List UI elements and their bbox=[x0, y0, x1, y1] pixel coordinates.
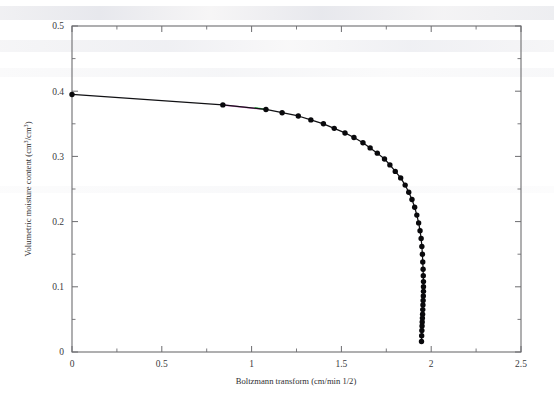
data-point-marker bbox=[419, 333, 424, 338]
y-axis-title: Volumetric moisture content (cm3/cm3) bbox=[22, 121, 33, 256]
y-tick-label: 0.3 bbox=[52, 152, 64, 162]
chart-plot: 00.511.522.5 00.10.20.30.40.5 Boltzmann … bbox=[0, 0, 554, 405]
data-point-marker bbox=[387, 162, 392, 167]
y-tick-label: 0.4 bbox=[52, 87, 64, 97]
data-point-marker bbox=[406, 190, 411, 195]
x-tick-label: 0.5 bbox=[156, 359, 168, 369]
data-point-marker bbox=[421, 279, 426, 284]
data-point-marker bbox=[360, 140, 365, 145]
data-point-marker bbox=[398, 175, 403, 180]
data-point-marker bbox=[279, 110, 284, 115]
plot-frame bbox=[72, 26, 521, 352]
y-tick-label: 0 bbox=[59, 347, 64, 357]
x-axis-tick-labels: 00.511.522.5 bbox=[70, 359, 528, 369]
y-axis-ticks bbox=[72, 26, 521, 352]
data-point-marker bbox=[402, 182, 407, 187]
data-point-marker bbox=[419, 328, 424, 333]
data-point-marker bbox=[332, 126, 337, 131]
data-point-marker bbox=[420, 259, 425, 264]
data-point-marker bbox=[420, 252, 425, 257]
data-point-marker bbox=[321, 121, 326, 126]
x-tick-label: 2 bbox=[429, 359, 434, 369]
data-point-marker bbox=[416, 220, 421, 225]
x-tick-label: 1 bbox=[249, 359, 254, 369]
data-point-marker bbox=[418, 236, 423, 241]
data-point-marker bbox=[308, 117, 313, 122]
data-point-marker bbox=[263, 107, 268, 112]
y-tick-label: 0.5 bbox=[52, 21, 64, 31]
y-tick-label: 0.2 bbox=[52, 217, 64, 227]
data-point-marker bbox=[421, 273, 426, 278]
data-point-marker bbox=[393, 169, 398, 174]
data-point-marker bbox=[414, 212, 419, 217]
x-tick-label: 1.5 bbox=[335, 359, 347, 369]
data-point-marker bbox=[351, 135, 356, 140]
x-tick-label: 0 bbox=[70, 359, 75, 369]
y-tick-label: 0.1 bbox=[52, 282, 64, 292]
y-axis-tick-labels: 00.10.20.30.40.5 bbox=[52, 21, 64, 357]
data-point-marker bbox=[409, 197, 414, 202]
data-point-marker bbox=[220, 102, 225, 107]
data-point-marker bbox=[417, 228, 422, 233]
data-point-marker bbox=[296, 113, 301, 118]
data-point-marker bbox=[382, 156, 387, 161]
data-point-marker bbox=[375, 150, 380, 155]
x-tick-label: 2.5 bbox=[515, 359, 527, 369]
data-point-marker bbox=[419, 244, 424, 249]
figure-canvas: 00.511.522.5 00.10.20.30.40.5 Boltzmann … bbox=[0, 0, 554, 405]
data-point-markers bbox=[69, 92, 426, 345]
data-series bbox=[69, 92, 426, 345]
data-point-marker bbox=[419, 339, 424, 344]
x-axis-title: Boltzmann transform (cm/min 1/2) bbox=[236, 376, 357, 386]
data-point-marker bbox=[420, 267, 425, 272]
data-point-marker bbox=[367, 145, 372, 150]
x-axis-ticks bbox=[72, 26, 521, 352]
data-point-marker bbox=[412, 205, 417, 210]
data-point-marker bbox=[69, 92, 74, 97]
data-point-marker bbox=[342, 130, 347, 135]
